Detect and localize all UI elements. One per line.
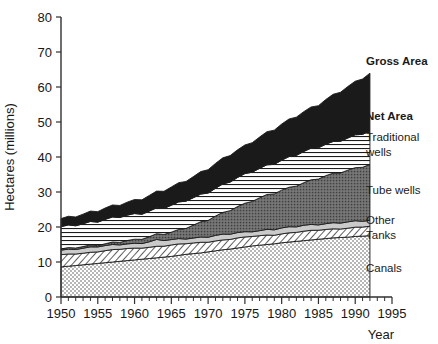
y-tick-label: 40 [38,150,52,165]
x-tick-label: 1975 [230,306,259,321]
chart-canvas: 0102030405060708019501955196019651970197… [0,0,438,344]
series-label-tanks: Tanks [366,229,396,241]
x-tick-label: 1985 [304,306,333,321]
x-tick-label: 1970 [194,306,223,321]
series-label-tube-wells: Tube wells [366,184,421,196]
series-label-gross-area: Gross Area [366,55,428,67]
y-tick-label: 70 [38,45,52,60]
x-tick-label: 1955 [83,306,112,321]
series-label-other: Other [366,214,395,226]
x-tick-label: 1965 [157,306,186,321]
y-axis-title: Hectares (millions) [2,103,17,211]
series-label-net-area: Net Area [366,110,413,122]
series-label-traditional-wells-line1: Traditional [366,131,419,143]
y-tick-label: 30 [38,185,52,200]
x-tick-label: 1995 [378,306,407,321]
x-tick-label: 1960 [120,306,149,321]
x-axis-title: Year [368,327,395,342]
y-tick-label: 0 [45,290,52,305]
x-tick-label: 1950 [47,306,76,321]
y-tick-label: 20 [38,220,52,235]
series-areas [61,73,370,297]
y-tick-label: 50 [38,115,52,130]
x-tick-label: 1980 [267,306,296,321]
stacked-area-chart: 0102030405060708019501955196019651970197… [0,0,438,344]
series-label-traditional-wells-line2: wells [366,146,392,158]
series-label-canals: Canals [366,262,402,274]
y-tick-label: 80 [38,10,52,25]
y-tick-label: 10 [38,255,52,270]
y-tick-label: 60 [38,80,52,95]
x-tick-label: 1990 [341,306,370,321]
